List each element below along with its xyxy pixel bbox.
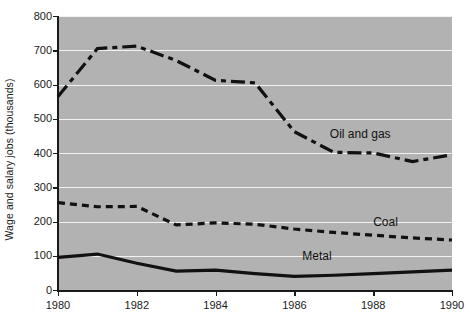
series-line-metal [58,254,452,276]
series-line-oil-and-gas [58,46,452,161]
series-label-coal: Coal [373,216,398,229]
series-lines [0,0,476,319]
series-label-metal: Metal [302,250,331,263]
series-label-oil-and-gas: Oil and gas [330,128,391,141]
chart-container: Wage and salary jobs (thousands) 0100200… [0,0,476,319]
